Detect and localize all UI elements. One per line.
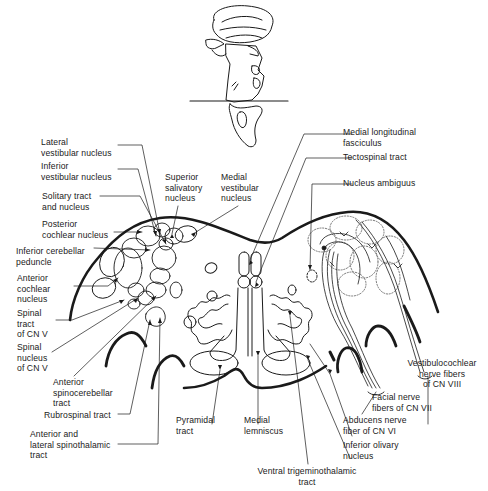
label-inferior-cerebellar-peduncle: Inferior cerebellar peduncle	[16, 246, 85, 267]
label-medial-longitudinal-fasciculus: Medial longitudinal fasciculus	[343, 127, 416, 148]
label-inferior-olivary-nucleus: Inferior olivary nucleus	[343, 440, 399, 461]
label-lateral-vestibular-nucleus: Lateral vestibular nucleus	[41, 137, 112, 158]
label-anterior-cochlear-nucleus: Anterior cochlear nucleus	[17, 273, 50, 305]
label-medial-lemniscus: Medial lemniscus	[244, 415, 283, 436]
label-nucleus-ambiguus: Nucleus ambiguus	[343, 178, 415, 189]
label-abducens-nerve-fiber: Abducens nerve fiber of CN VI	[343, 415, 407, 436]
label-spinal-tract-cn-v: Spinal tract of CN V	[17, 308, 48, 340]
inset-brainstem-icon	[190, 6, 288, 147]
label-facial-nerve-fibers: Facial nerve fibers of CN VII	[372, 392, 432, 413]
label-ventral-trigeminothalamic-tract: Ventral trigeminothalamic tract	[232, 466, 382, 487]
label-vestibulocochlear-nerve-fibers: Vestibulocochlear nerve fibers of CN VII…	[395, 358, 488, 390]
label-anterior-spinocerebellar-tract: Anterior spinocerebellar tract	[53, 377, 113, 409]
label-posterior-cochlear-nucleus: Posterior cochlear nucleus	[42, 219, 108, 240]
label-medial-vestibular-nucleus: Medial vestibular nucleus	[221, 172, 259, 204]
label-inferior-vestibular-nucleus: Inferior vestibular nucleus	[41, 161, 112, 182]
label-rubrospinal-tract: Rubrospinal tract	[44, 410, 111, 421]
arrowheads	[113, 229, 332, 374]
label-solitary-tract-and-nucleus: Solitary tract and nucleus	[42, 191, 91, 212]
label-tectospinal-tract: Tectospinal tract	[343, 152, 407, 163]
inferior-olivary-nuclei	[188, 295, 312, 344]
label-spinal-nucleus-cn-v: Spinal nucleus of CN V	[17, 342, 48, 374]
label-superior-salivatory-nucleus: Superior salivatory nucleus	[165, 172, 202, 204]
label-pyramidal-tract: Pyramidal tract	[176, 415, 215, 436]
medulla-outline	[70, 212, 438, 388]
label-anterior-lateral-spinothalamic-tract: Anterior and lateral spinothalamic tract	[30, 429, 110, 461]
midline-structures	[184, 252, 317, 375]
